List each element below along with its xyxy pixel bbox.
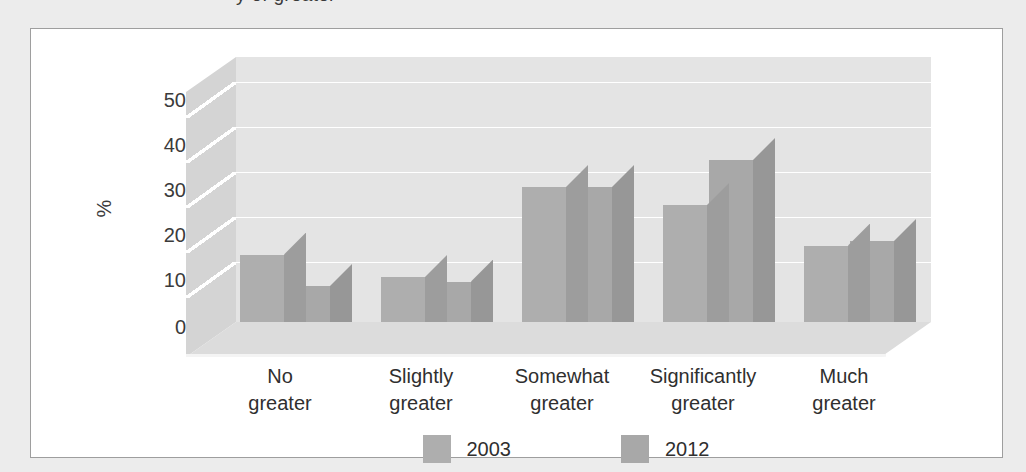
x-axis-label-line: No	[200, 363, 360, 390]
y-tick-label-40: 40	[164, 134, 186, 157]
gridline-40	[236, 127, 931, 128]
chart-x-axis-labels: NogreaterSlightlygreaterSomewhatgreaterS…	[186, 363, 946, 425]
cropped-caption: y of greater	[0, 0, 1026, 13]
legend-swatch-2012	[621, 435, 649, 463]
legend-swatch-2003	[423, 435, 451, 463]
bar-side-face	[566, 165, 588, 322]
x-axis-label-line: greater	[482, 390, 642, 417]
x-axis-label-line: Somewhat	[482, 363, 642, 390]
x-axis-label-line: Much	[764, 363, 924, 390]
bar-2003-2	[522, 187, 566, 322]
bar-front-face	[240, 255, 284, 323]
bar-front-face	[522, 187, 566, 322]
bar-2003-4	[804, 246, 848, 323]
chart-floor-edge	[186, 354, 886, 357]
x-axis-label-1: Slightlygreater	[341, 363, 501, 417]
legend-item-2003[interactable]: 2003	[423, 435, 512, 463]
gridline-50	[236, 82, 931, 83]
y-tick-label-30: 30	[164, 179, 186, 202]
bar-2003-0	[240, 255, 284, 323]
legend-item-2012[interactable]: 2012	[621, 435, 710, 463]
bar-side-face	[612, 165, 634, 322]
chart-plot-area: 01020304050 %	[186, 57, 931, 357]
x-axis-label-3: Significantlygreater	[623, 363, 783, 417]
chart-y-axis-label: %	[93, 200, 116, 218]
bar-side-face	[707, 183, 729, 322]
bar-front-face	[381, 277, 425, 322]
legend-label-2012: 2012	[665, 438, 710, 461]
bar-2003-3	[663, 205, 707, 322]
x-axis-label-line: greater	[623, 390, 783, 417]
x-axis-label-line: Slightly	[341, 363, 501, 390]
x-axis-label-2: Somewhatgreater	[482, 363, 642, 417]
figure-panel: 01020304050 % NogreaterSlightlygreaterSo…	[30, 28, 1003, 458]
x-axis-label-line: greater	[341, 390, 501, 417]
bar-front-face	[663, 205, 707, 322]
x-axis-label-0: Nogreater	[200, 363, 360, 417]
page-background: y of greater 01020304050 % NogreaterSlig…	[0, 0, 1026, 472]
y-tick-label-10: 10	[164, 269, 186, 292]
y-tick-label-50: 50	[164, 89, 186, 112]
legend-label-2003: 2003	[467, 438, 512, 461]
chart-legend: 20032012	[186, 429, 946, 469]
x-axis-label-4: Muchgreater	[764, 363, 924, 417]
y-tick-label-0: 0	[175, 316, 186, 339]
x-axis-label-line: greater	[200, 390, 360, 417]
x-axis-label-line: Significantly	[623, 363, 783, 390]
bar-side-face	[753, 138, 775, 322]
bar-front-face	[804, 246, 848, 323]
bar-2003-1	[381, 277, 425, 322]
caption-text: y of greater	[236, 0, 336, 6]
y-tick-label-20: 20	[164, 224, 186, 247]
x-axis-label-line: greater	[764, 390, 924, 417]
